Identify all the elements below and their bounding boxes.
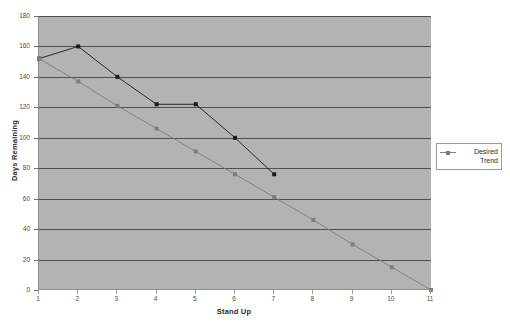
data-point-marker bbox=[272, 172, 276, 176]
y-tick-label: 40 bbox=[4, 225, 30, 232]
data-point-marker bbox=[76, 44, 80, 48]
y-tick-mark bbox=[34, 46, 38, 47]
x-tick-mark bbox=[430, 290, 431, 294]
y-tick-label: 0 bbox=[4, 286, 30, 293]
x-tick-label: 11 bbox=[420, 295, 440, 302]
x-tick-mark bbox=[273, 290, 274, 294]
data-point-marker bbox=[390, 265, 394, 269]
y-tick-label: 180 bbox=[4, 12, 30, 19]
x-tick-mark bbox=[156, 290, 157, 294]
x-tick-label: 3 bbox=[106, 295, 126, 302]
x-tick-mark bbox=[116, 290, 117, 294]
x-tick-label: 7 bbox=[263, 295, 283, 302]
x-tick-mark bbox=[234, 290, 235, 294]
legend-marker-icon bbox=[440, 148, 456, 157]
legend-label-line2: Trend bbox=[480, 157, 498, 164]
data-point-marker bbox=[351, 242, 355, 246]
y-tick-label: 160 bbox=[4, 42, 30, 49]
data-point-marker bbox=[76, 79, 80, 83]
data-point-marker bbox=[194, 149, 198, 153]
chart-container: Days Remaining 020406080100120140160180 … bbox=[0, 0, 510, 325]
series-desired-trend bbox=[37, 57, 433, 292]
data-point-marker bbox=[233, 136, 237, 140]
y-tick-mark bbox=[34, 199, 38, 200]
x-axis-title: Stand Up bbox=[0, 307, 468, 316]
x-tick-mark bbox=[352, 290, 353, 294]
legend-label: Desired Trend bbox=[458, 147, 498, 165]
x-tick-label: 1 bbox=[28, 295, 48, 302]
data-point-marker bbox=[155, 127, 159, 131]
y-tick-label: 120 bbox=[4, 103, 30, 110]
y-tick-mark bbox=[34, 260, 38, 261]
x-tick-mark bbox=[312, 290, 313, 294]
data-point-marker bbox=[115, 104, 119, 108]
data-point-marker bbox=[311, 218, 315, 222]
data-point-marker bbox=[155, 102, 159, 106]
y-tick-mark bbox=[34, 138, 38, 139]
y-tick-label: 140 bbox=[4, 73, 30, 80]
x-tick-mark bbox=[77, 290, 78, 294]
x-tick-label: 8 bbox=[302, 295, 322, 302]
y-axis-title: Days Remaining bbox=[10, 111, 19, 191]
y-tick-mark bbox=[34, 107, 38, 108]
y-tick-label: 100 bbox=[4, 134, 30, 141]
series-line bbox=[39, 46, 274, 174]
legend-label-line1: Desired bbox=[474, 148, 498, 155]
y-tick-label: 20 bbox=[4, 256, 30, 263]
data-series-layer bbox=[39, 16, 431, 290]
x-tick-label: 2 bbox=[67, 295, 87, 302]
x-tick-mark bbox=[38, 290, 39, 294]
y-tick-mark bbox=[34, 229, 38, 230]
y-tick-label: 80 bbox=[4, 164, 30, 171]
x-tick-label: 6 bbox=[224, 295, 244, 302]
legend-item-desired-trend: Desired Trend bbox=[440, 147, 498, 165]
x-tick-mark bbox=[195, 290, 196, 294]
data-point-marker bbox=[37, 57, 41, 61]
data-point-marker bbox=[272, 195, 276, 199]
x-tick-label: 4 bbox=[146, 295, 166, 302]
data-point-marker bbox=[194, 102, 198, 106]
y-tick-mark bbox=[34, 16, 38, 17]
y-tick-label: 60 bbox=[4, 195, 30, 202]
data-point-marker bbox=[115, 75, 119, 79]
y-tick-mark bbox=[34, 77, 38, 78]
data-point-marker bbox=[233, 172, 237, 176]
plot-area bbox=[38, 16, 431, 290]
chart-legend: Desired Trend bbox=[436, 143, 502, 170]
y-tick-mark bbox=[34, 168, 38, 169]
x-tick-label: 10 bbox=[381, 295, 401, 302]
series-actual bbox=[37, 44, 276, 176]
x-tick-label: 5 bbox=[185, 295, 205, 302]
x-tick-label: 9 bbox=[342, 295, 362, 302]
x-tick-mark bbox=[391, 290, 392, 294]
